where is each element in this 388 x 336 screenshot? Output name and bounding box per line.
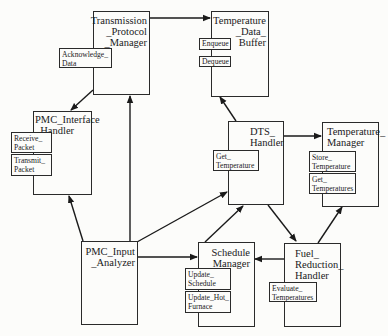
operation-enqueue[interactable]: Enqueue [199, 38, 231, 50]
operation-acknowledge-data[interactable]: Acknowledge_ Data [59, 48, 112, 68]
arrow-sm-to-dts [205, 206, 243, 242]
operation-update-hot-furnace[interactable]: Update_Hot_ Furnace [185, 291, 231, 313]
module-title: Temperature_ Manager [327, 126, 385, 148]
operation-get-temperatures[interactable]: Get_ Temperatures [309, 173, 356, 194]
arrow-pia-to-pih [69, 196, 83, 241]
operation-transmit-packet[interactable]: Transmit_ Packet [11, 154, 52, 176]
arrow-frh-to-tm [318, 207, 342, 243]
module-title: Schedule _Manager [207, 247, 250, 269]
module-title: DTS_ Handler [250, 126, 284, 148]
operation-dequeue[interactable]: Dequeue [199, 56, 231, 67]
module-pmc-interface-handler[interactable]: PMC_Interface _Handler [33, 111, 92, 195]
operation-receive-packet[interactable]: Receive_ Packet [11, 132, 52, 153]
module-title: Fuel_ Reduction_ Handler [295, 248, 343, 281]
operation-update-schedule[interactable]: Update_ Schedule [185, 268, 231, 290]
arrow-dts-to-frh [268, 205, 296, 241]
operation-store-temperature[interactable]: Store_ Temperature [309, 151, 356, 172]
module-title: PMC_Input _Analyzer [85, 246, 135, 268]
module-title: Transmission _Protocol _Manager [91, 15, 147, 48]
module-diagram: Transmission _Protocol _Manager Acknowle… [0, 0, 388, 336]
module-pmc-input-analyzer[interactable]: PMC_Input _Analyzer [81, 241, 138, 325]
module-temperature-data-buffer[interactable]: Temperature _Data_ Buffer [211, 11, 269, 97]
arrow-tpm-to-pih [71, 90, 93, 110]
operation-evaluate-temperatures[interactable]: Evaluate_ Temperatures [269, 282, 317, 302]
operation-get-temperature[interactable]: Get_ Temperature [213, 150, 259, 171]
arrow-dts-to-tdb [220, 97, 236, 121]
